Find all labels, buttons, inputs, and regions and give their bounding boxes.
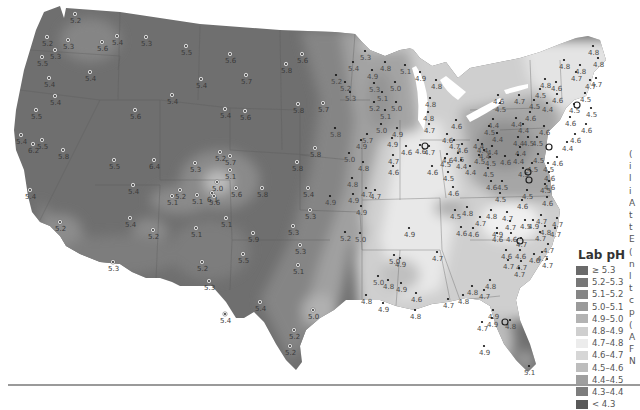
site-ph-label: 4.8 — [380, 65, 391, 73]
site-ph-label: 4.6 — [401, 149, 413, 157]
site-dot-icon — [224, 108, 226, 110]
legend-label: ≥ 5.3 — [592, 265, 615, 275]
site-dot-icon — [244, 110, 246, 112]
site-ph-label: 4.4 — [513, 158, 525, 166]
legend-label: 4.7–4.8 — [592, 338, 623, 348]
site-dot-icon — [285, 63, 287, 65]
site-ph-label: 4.4 — [513, 140, 525, 148]
site-dot-icon — [504, 155, 506, 157]
site-dot-icon — [112, 261, 114, 263]
legend-label: 4.8–4.9 — [592, 326, 623, 336]
site-ph-label: 5.3 — [369, 86, 380, 94]
site-ph-label: 5.4 — [85, 75, 97, 83]
site-dot-icon — [479, 216, 481, 218]
site-ph-label: 5.5 — [37, 60, 48, 68]
site-ph-label: 5.4 — [196, 82, 208, 90]
side-text-fragment: i — [629, 160, 640, 172]
site-dot-icon — [460, 159, 462, 161]
site-ph-label: 4.9 — [404, 231, 415, 239]
site-ph-label: 4.5 — [522, 193, 533, 201]
site-ph-label: 5.1 — [377, 95, 388, 103]
site-dot-icon — [454, 209, 456, 211]
site-dot-icon — [400, 282, 402, 284]
site-dot-icon — [296, 161, 298, 163]
site-dot-icon — [419, 144, 421, 146]
site-dot-icon — [208, 280, 210, 282]
site-dot-icon — [556, 93, 558, 95]
site-ph-label: 4.6 — [552, 97, 564, 105]
site-ph-label: 4.6 — [468, 231, 480, 239]
site-ph-label: 4.6 — [515, 253, 527, 261]
site-ph-label: 5.2 — [197, 265, 208, 273]
site-ph-label: 5.7 — [225, 159, 236, 167]
site-dot-icon — [393, 254, 395, 256]
site-dot-icon — [349, 91, 351, 93]
legend-label: 4.5–4.6 — [592, 363, 623, 373]
site-ph-label: 5.3 — [295, 248, 306, 256]
site-dot-icon — [54, 49, 56, 51]
site-ph-label: 4.7 — [370, 193, 381, 201]
site-dot-icon — [377, 275, 379, 277]
site-dot-icon — [352, 61, 354, 63]
site-dot-icon — [335, 74, 337, 76]
site-dot-icon — [89, 71, 91, 73]
site-dot-icon — [483, 289, 485, 291]
bottom-rule — [8, 384, 640, 386]
site-dot-icon — [455, 119, 457, 121]
site-ph-label: 4.7 — [514, 98, 525, 106]
site-dot-icon — [384, 61, 386, 63]
site-ph-label: 4.9 — [488, 313, 499, 321]
site-ph-label: 4.8 — [425, 101, 436, 109]
site-dot-icon — [519, 146, 521, 148]
site-dot-icon — [543, 125, 545, 127]
site-ph-label: 4.6 — [539, 129, 551, 137]
site-ph-label: 4.8 — [540, 82, 551, 90]
site-ph-label: 4.7 — [388, 158, 399, 166]
site-ph-label: 5.3 — [360, 54, 371, 62]
site-dot-icon — [518, 267, 520, 269]
site-ph-label: 4.8 — [593, 61, 604, 69]
side-text-fragment: t — [629, 209, 640, 221]
site-dot-icon — [488, 125, 490, 127]
site-ph-label: 4.5 — [533, 157, 544, 165]
site-dot-icon — [524, 219, 526, 221]
site-ph-label: 5.4 — [220, 317, 232, 325]
site-ph-label: 5.1 — [167, 199, 178, 207]
site-dot-icon — [515, 117, 517, 119]
site-dot-icon — [585, 123, 587, 125]
site-ph-label: 4.6 — [486, 184, 498, 192]
site-ph-label: 5.5 — [238, 257, 249, 265]
site-dot-icon — [365, 294, 367, 296]
site-dot-icon — [491, 317, 493, 319]
site-dot-icon — [522, 123, 524, 125]
legend-label: 5.0–5.1 — [592, 302, 623, 312]
site-ph-label: 4.6 — [542, 200, 554, 208]
side-text-fragment: l — [629, 172, 640, 184]
side-text-fragment: i — [629, 185, 640, 197]
side-text-fragment: A — [629, 197, 640, 209]
site-dot-icon — [522, 167, 524, 169]
site-ph-label: 4.8 — [431, 83, 442, 91]
side-text-fragment: ( — [629, 319, 640, 331]
site-ph-label: 4.9 — [528, 223, 539, 231]
site-ph-label: 4.7 — [552, 221, 563, 229]
site-ph-label: 5.8 — [281, 67, 292, 75]
site-ph-label: 4.5 — [440, 161, 451, 169]
site-ph-label: 4.9 — [325, 199, 336, 207]
legend-swatch — [576, 387, 588, 396]
sample-site: 4.6 — [552, 156, 564, 168]
site-dot-icon — [592, 45, 594, 47]
site-dot-icon — [41, 139, 43, 141]
site-ph-label: 5.4 — [16, 138, 28, 146]
site-dot-icon — [579, 64, 581, 66]
legend-swatch — [576, 314, 588, 323]
site-dot-icon — [229, 169, 231, 171]
site-ph-label: 4.6 — [451, 123, 463, 131]
site-dot-icon — [505, 249, 507, 251]
site-ph-label: 4.7 — [505, 224, 516, 232]
site-dot-icon — [566, 141, 568, 143]
side-text-fragment: t — [629, 282, 640, 294]
site-dot-icon — [590, 107, 592, 109]
site-dot-icon — [195, 227, 197, 229]
